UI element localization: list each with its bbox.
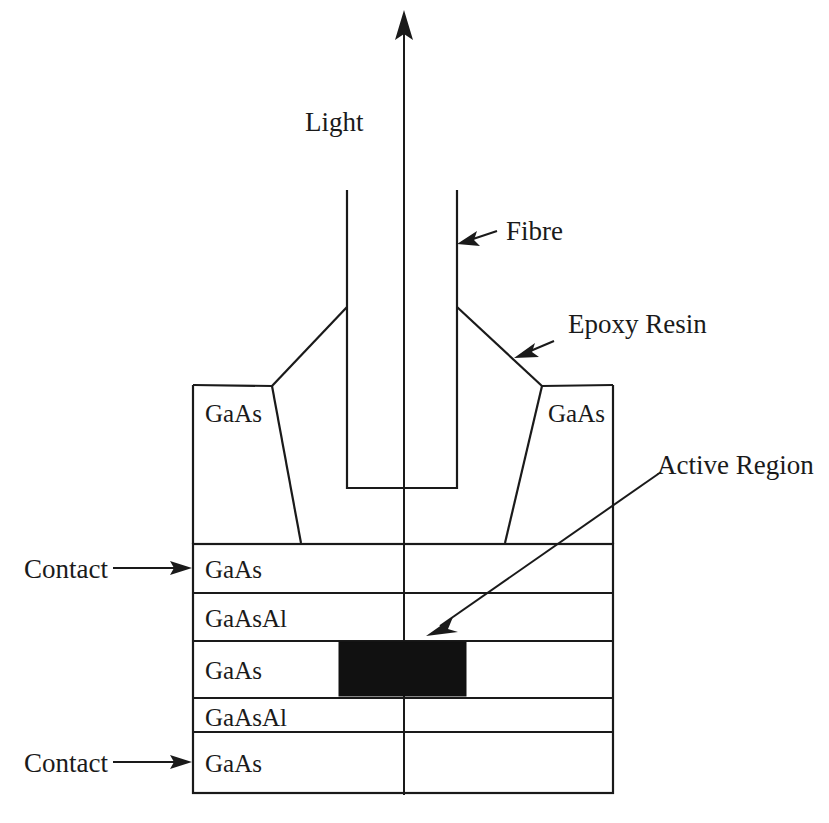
epoxy-resin-right-slope: [457, 307, 542, 386]
contact-bottom-callout-arrow: [113, 755, 192, 769]
layer-label-2: GaAsAl: [205, 605, 287, 632]
mesa-label-left: GaAs: [205, 400, 262, 427]
layer-label-4: GaAsAl: [205, 704, 287, 731]
epoxy-resin-label: Epoxy Resin: [568, 309, 707, 339]
epoxy-resin-left-slope: [272, 307, 347, 386]
fibre-label: Fibre: [506, 216, 563, 246]
layer-label-1: GaAs: [205, 556, 262, 583]
layer-label-5: GaAs: [205, 750, 262, 777]
mesa-label-right: GaAs: [548, 400, 605, 427]
layer-label-3: GaAs: [205, 657, 262, 684]
contact-bottom-label: Contact: [24, 748, 108, 778]
contact-top-callout-arrow: [113, 561, 192, 575]
fibre-body: [347, 190, 457, 488]
led-cross-section-diagram: Light Fibre Epoxy Resin Active Region Co…: [0, 0, 829, 823]
active-region-block: [339, 642, 466, 696]
active-region-label: Active Region: [657, 450, 814, 480]
active-region-callout-arrow: [426, 472, 661, 636]
contact-top-label: Contact: [24, 554, 108, 584]
diagram-canvas: Light Fibre Epoxy Resin Active Region Co…: [0, 0, 829, 823]
light-label: Light: [305, 107, 364, 137]
fibre-callout-arrow: [457, 231, 497, 246]
epoxy-resin-callout-arrow: [514, 341, 554, 358]
